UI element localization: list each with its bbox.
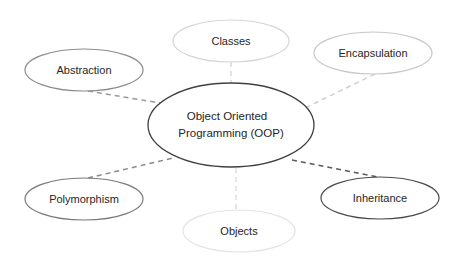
encapsulation-label: Encapsulation xyxy=(338,47,407,59)
center-label-line2: Programming (OOP) xyxy=(178,127,284,139)
node-polymorphism: Polymorphism xyxy=(25,178,143,220)
objects-label: Objects xyxy=(220,225,258,237)
connector-polymorphism xyxy=(88,158,173,178)
oop-mind-map: ClassesAbstractionEncapsulationPolymorph… xyxy=(0,0,462,270)
node-inheritance: Inheritance xyxy=(321,177,439,219)
node-classes: Classes xyxy=(173,20,289,62)
classes-label: Classes xyxy=(211,35,251,47)
node-abstraction: Abstraction xyxy=(25,49,143,91)
connector-encapsulation xyxy=(305,74,375,108)
polymorphism-label: Polymorphism xyxy=(49,193,119,205)
center-node-oop: Object Oriented Programming (OOP) xyxy=(148,83,314,167)
node-objects: Objects xyxy=(183,210,295,252)
connector-inheritance xyxy=(292,160,378,177)
node-encapsulation: Encapsulation xyxy=(314,32,432,74)
center-label-line1: Object Oriented xyxy=(187,110,268,122)
abstraction-label: Abstraction xyxy=(56,64,111,76)
connector-abstraction xyxy=(88,91,166,104)
center-ellipse xyxy=(148,83,314,167)
inheritance-label: Inheritance xyxy=(353,192,407,204)
